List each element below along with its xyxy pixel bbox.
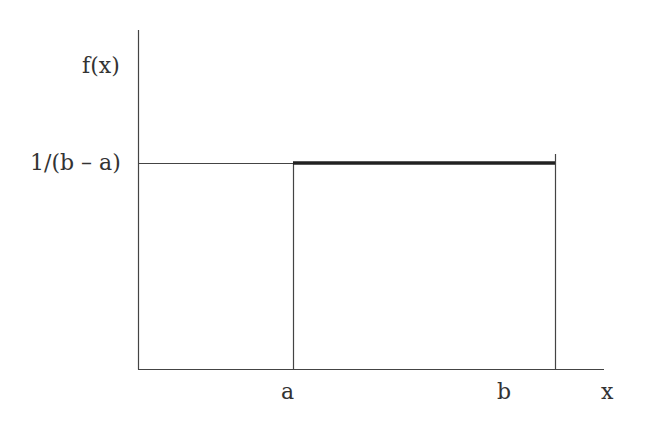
y-axis-label: f(x): [82, 55, 120, 77]
y-level-label: 1/(b – a): [30, 152, 121, 174]
x-tick-a: a: [281, 381, 294, 403]
x-tick-b: b: [497, 381, 511, 403]
x-axis-label: x: [601, 381, 613, 403]
